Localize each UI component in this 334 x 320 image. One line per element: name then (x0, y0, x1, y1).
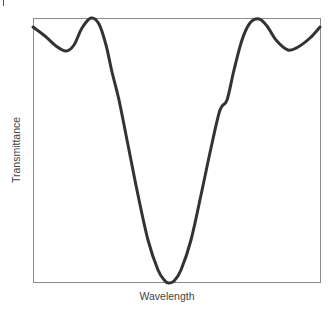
plot-area-frame (34, 19, 321, 283)
transmittance-chart (0, 0, 334, 320)
transmittance-curve (33, 18, 320, 283)
x-axis-label: Wavelength (0, 290, 334, 302)
y-axis-label: Transmittance (10, 117, 22, 183)
